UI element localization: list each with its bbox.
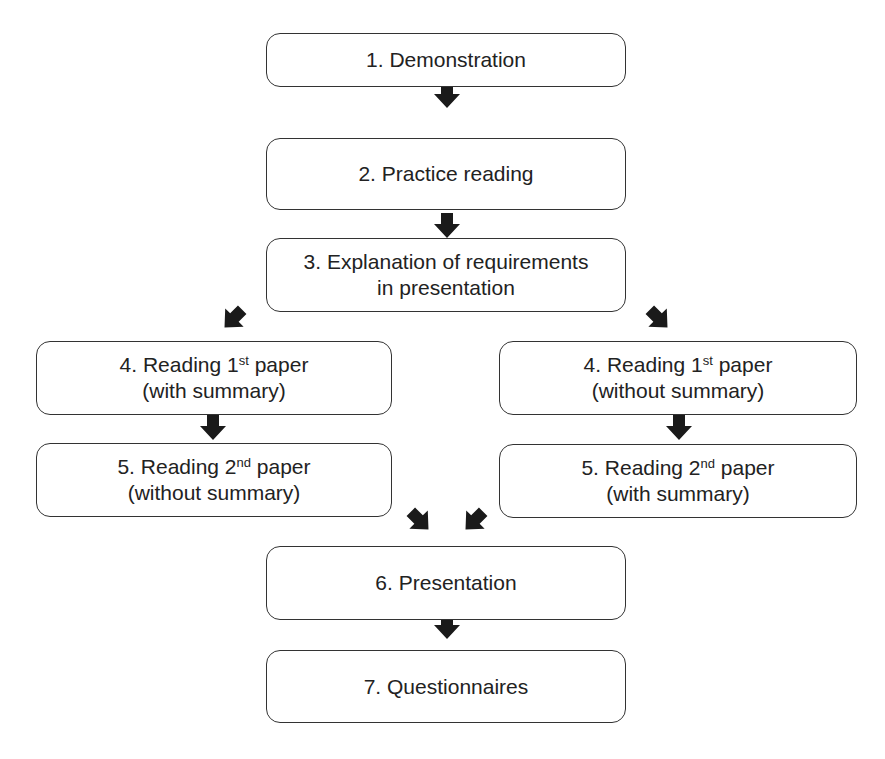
- step-label-line1: 5. Reading 2nd paper: [117, 454, 310, 480]
- arrow-diagonal-left-icon: [456, 503, 492, 539]
- step-demonstration: 1. Demonstration: [266, 33, 626, 87]
- step-label: 6. Presentation: [375, 570, 516, 596]
- step-label-line1: 4. Reading 1st paper: [584, 352, 773, 378]
- step-label-line2: (without summary): [128, 480, 301, 506]
- arrow-down-icon: [200, 415, 226, 440]
- arrow-diagonal-right-icon: [402, 503, 438, 539]
- step-label-line2: (with summary): [606, 481, 750, 507]
- step-label-line2: in presentation: [377, 275, 515, 301]
- step-label-line1: 4. Reading 1st paper: [120, 352, 309, 378]
- step-explanation-requirements: 3. Explanation of requirements in presen…: [266, 238, 626, 312]
- step-questionnaires: 7. Questionnaires: [266, 650, 626, 723]
- step-label-line2: (with summary): [142, 378, 286, 404]
- step-label-line1: 3. Explanation of requirements: [304, 249, 589, 275]
- step-label: 1. Demonstration: [366, 47, 526, 73]
- arrow-down-icon: [666, 415, 692, 440]
- arrow-diagonal-left-icon: [215, 301, 251, 337]
- step-reading-first-paper-left: 4. Reading 1st paper (with summary): [36, 341, 392, 415]
- arrow-down-icon: [434, 213, 460, 238]
- step-reading-second-paper-right: 5. Reading 2nd paper (with summary): [499, 444, 857, 518]
- step-reading-first-paper-right: 4. Reading 1st paper (without summary): [499, 341, 857, 415]
- step-label-line2: (without summary): [592, 378, 765, 404]
- step-label-line1: 5. Reading 2nd paper: [581, 455, 774, 481]
- step-practice-reading: 2. Practice reading: [266, 138, 626, 210]
- step-label: 2. Practice reading: [358, 161, 533, 187]
- step-label: 7. Questionnaires: [364, 674, 529, 700]
- step-reading-second-paper-left: 5. Reading 2nd paper (without summary): [36, 443, 392, 517]
- arrow-diagonal-right-icon: [641, 301, 677, 337]
- step-presentation: 6. Presentation: [266, 546, 626, 620]
